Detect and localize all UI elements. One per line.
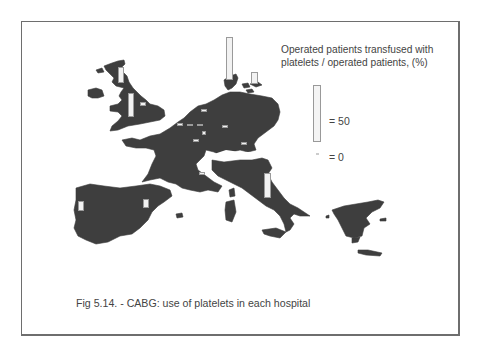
legend-title: Operated patients transfused with platel… xyxy=(281,44,433,69)
great-britain xyxy=(104,60,165,131)
hospital-bar xyxy=(251,72,258,84)
greece xyxy=(332,200,384,238)
hospital-bar xyxy=(264,173,271,198)
legend-title-line-1: Operated patients transfused with xyxy=(281,44,433,57)
hospital-bar xyxy=(197,124,203,126)
hospital-bar xyxy=(202,131,206,135)
hospital-bar xyxy=(177,123,183,126)
iberia xyxy=(74,184,172,244)
hospital-bar xyxy=(78,201,84,211)
ireland xyxy=(88,88,104,98)
italy xyxy=(212,158,310,232)
hospital-bar xyxy=(187,124,193,126)
hospital-bar xyxy=(201,109,207,112)
corsica xyxy=(229,188,235,197)
hospital-bar xyxy=(226,37,233,80)
legend-title-line-2: platelets / operated patients, (%) xyxy=(281,57,433,70)
sicily xyxy=(262,228,286,238)
hospital-bar xyxy=(222,125,228,128)
legend-max-label: = 50 xyxy=(329,115,350,127)
legend-zero-label: = 0 xyxy=(329,151,344,163)
figure-caption: Fig 5.14. - CABG: use of platelets in ea… xyxy=(76,297,310,309)
hospital-bar xyxy=(128,93,134,117)
crete xyxy=(358,250,382,256)
legend-zero-marker xyxy=(316,153,319,155)
hospital-bar xyxy=(241,142,247,145)
hospital-bar xyxy=(199,172,205,175)
hospital-bar xyxy=(140,102,146,106)
sardinia xyxy=(225,200,236,222)
hospital-bar xyxy=(143,199,149,208)
legend-scale-bar xyxy=(313,85,321,142)
hospital-bar xyxy=(193,139,199,142)
balearic-islands xyxy=(176,213,183,218)
hospital-bar xyxy=(118,67,124,83)
